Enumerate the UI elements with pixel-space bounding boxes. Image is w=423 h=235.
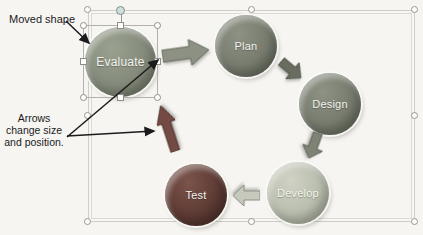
canvas-handle-middle-left[interactable] xyxy=(84,112,91,119)
annotation-arrows-note-line3: and position. xyxy=(2,136,66,148)
selection-handle-middle-right[interactable] xyxy=(154,58,161,65)
selection-handle-bottom-right[interactable] xyxy=(154,94,161,101)
node-develop[interactable]: Develop xyxy=(267,162,329,224)
selection-handle-bottom-left[interactable] xyxy=(80,94,87,101)
selection-rect-evaluate xyxy=(83,25,158,98)
connector-arrow-develop-test[interactable] xyxy=(233,185,260,206)
node-test[interactable]: Test xyxy=(165,164,227,226)
annotation-arrows-note-line2: change size xyxy=(2,124,66,136)
annotation-moved-shape: Moved shape xyxy=(9,13,75,25)
node-develop-label: Develop xyxy=(277,187,319,199)
canvas-handle-top-right[interactable] xyxy=(411,6,418,13)
canvas-handle-bottom-center[interactable] xyxy=(248,218,255,225)
selection-handle-top-center[interactable] xyxy=(117,22,124,29)
canvas-handle-middle-right[interactable] xyxy=(411,112,418,119)
rotation-handle-icon[interactable] xyxy=(116,6,125,15)
node-plan[interactable]: Plan xyxy=(215,15,277,77)
annotation-arrows-note: Arrows change size and position. xyxy=(2,112,66,148)
selection-handle-top-left[interactable] xyxy=(80,22,87,29)
canvas-handle-bottom-right[interactable] xyxy=(411,218,418,225)
page-background: Evaluate Plan Design Develop Test xyxy=(0,0,423,235)
node-test-label: Test xyxy=(186,189,207,201)
canvas-handle-top-center[interactable] xyxy=(248,6,255,13)
selection-handle-top-right[interactable] xyxy=(154,22,161,29)
canvas-handle-top-left[interactable] xyxy=(84,6,91,13)
selection-handle-middle-left[interactable] xyxy=(80,58,87,65)
node-plan-label: Plan xyxy=(235,40,258,52)
selection-handle-bottom-center[interactable] xyxy=(117,94,124,101)
node-design-label: Design xyxy=(312,98,347,110)
annotation-arrows-note-line1: Arrows xyxy=(2,112,66,124)
canvas-handle-bottom-left[interactable] xyxy=(84,218,91,225)
node-design[interactable]: Design xyxy=(299,73,361,135)
